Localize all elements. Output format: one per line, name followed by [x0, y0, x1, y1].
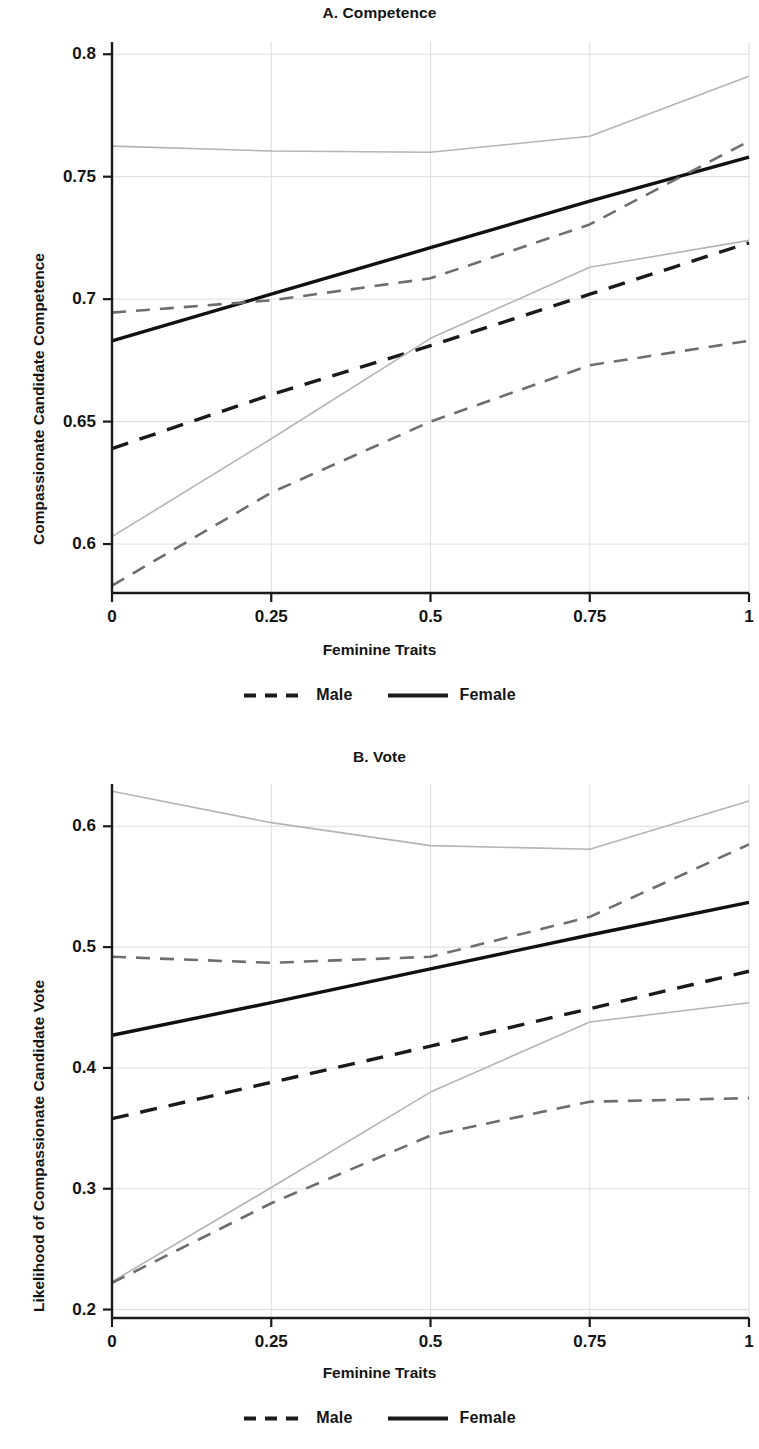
gridlines [112, 42, 749, 593]
panel-b-y-axis-label: Likelihood of Compassionate Candidate Vo… [30, 980, 48, 1312]
x-tick-label: 1 [744, 1332, 753, 1352]
legend-entry-female: Female [387, 686, 516, 704]
y-tick-label: 0.75 [0, 167, 96, 187]
gridlines [112, 784, 749, 1318]
y-tick-label: 0.3 [0, 1179, 96, 1199]
legend-entry-male: Male [243, 1409, 352, 1427]
x-tick-label: 0 [107, 1332, 116, 1352]
legend-label-female: Female [460, 1409, 516, 1427]
y-tick-label: 0.5 [0, 937, 96, 957]
panel-a-x-axis-label: Feminine Traits [0, 641, 759, 659]
x-tick-label: 0.25 [255, 607, 288, 627]
y-tick-label: 0.65 [0, 412, 96, 432]
x-tick-label: 0.75 [573, 607, 606, 627]
legend-dashed-line-icon [243, 1413, 305, 1424]
x-tick-label: 0.5 [419, 1332, 443, 1352]
legend-solid-line-icon [387, 690, 449, 701]
panel-b-legend: Male Female [0, 1409, 759, 1427]
x-tick-label: 0 [107, 607, 116, 627]
chart-canvas [112, 784, 749, 1318]
legend-label-male: Male [316, 686, 352, 704]
y-tick-label: 0.4 [0, 1058, 96, 1078]
panel-b-plot-area [112, 784, 749, 1318]
panel-vote: B. Vote Likelihood of Compassionate Cand… [0, 724, 759, 1449]
x-tick-label: 0.75 [573, 1332, 606, 1352]
x-tick-label: 1 [744, 607, 753, 627]
legend-label-female: Female [460, 686, 516, 704]
y-tick-label: 0.8 [0, 44, 96, 64]
legend-dashed-line-icon [243, 690, 305, 701]
y-tick-label: 0.2 [0, 1300, 96, 1320]
x-tick-label: 0.25 [255, 1332, 288, 1352]
legend-label-male: Male [316, 1409, 352, 1427]
panel-a-legend: Male Female [0, 686, 759, 704]
legend-entry-male: Male [243, 686, 352, 704]
panel-competence: A. Competence Compassionate Candidate Co… [0, 0, 759, 724]
panel-a-plot-area [112, 42, 749, 593]
panel-a-title: A. Competence [0, 4, 759, 22]
y-tick-label: 0.6 [0, 534, 96, 554]
chart-canvas [112, 42, 749, 593]
x-tick-label: 0.5 [419, 607, 443, 627]
panel-b-title: B. Vote [0, 748, 759, 766]
panel-b-x-axis-label: Feminine Traits [0, 1364, 759, 1382]
y-tick-label: 0.7 [0, 289, 96, 309]
legend-entry-female: Female [387, 1409, 516, 1427]
y-tick-label: 0.6 [0, 816, 96, 836]
figure-root: A. Competence Compassionate Candidate Co… [0, 0, 759, 1449]
legend-solid-line-icon [387, 1413, 449, 1424]
